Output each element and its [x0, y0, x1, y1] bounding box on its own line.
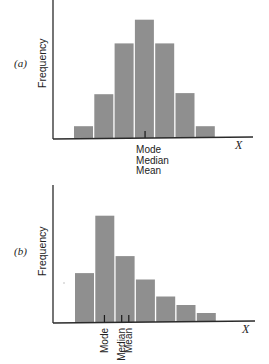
panel-b: (b) Frequency X ModeMedianMean: [14, 185, 255, 361]
marker-label-mode: Mode: [136, 144, 161, 155]
marker-labels-a: ModeMedianMean: [136, 144, 169, 176]
bar-b-3: [116, 256, 135, 322]
y-axis-label-b: Frequency: [36, 226, 48, 276]
marker-label-mode: Mode: [99, 328, 110, 353]
marker-label-mean: Mean: [123, 328, 134, 353]
bar-b-5: [156, 297, 175, 323]
panel-label-b: (b): [14, 245, 27, 258]
y-axis-label-a: Frequency: [36, 38, 48, 88]
bar-a-1: [74, 126, 93, 138]
chart-figure: (a) Frequency X ModeMedianMean (b) Frequ…: [0, 0, 269, 364]
bar-b-2: [95, 216, 114, 322]
bar-a-6: [176, 93, 195, 138]
bars-a: [74, 20, 215, 138]
bar-a-5: [155, 43, 174, 138]
panel-label-a: (a): [14, 57, 27, 70]
x-axis-label-a: X: [234, 138, 243, 152]
marker-labels-b: ModeMedianMean: [99, 328, 134, 361]
bar-b-7: [197, 313, 216, 322]
bar-a-4: [135, 20, 154, 138]
panel-a: (a) Frequency X ModeMedianMean: [14, 0, 253, 176]
bar-b-6: [177, 305, 196, 322]
bar-a-7: [196, 126, 215, 138]
x-axis-label-b: X: [241, 322, 250, 336]
bar-a-3: [115, 43, 134, 138]
bar-b-1: [75, 273, 94, 322]
marker-label-median: Median: [136, 155, 169, 166]
bars-b: [75, 216, 216, 322]
marker-label-mean: Mean: [136, 165, 161, 176]
stray-mark: [63, 282, 65, 284]
bar-a-2: [94, 94, 113, 138]
bar-b-4: [136, 280, 155, 323]
